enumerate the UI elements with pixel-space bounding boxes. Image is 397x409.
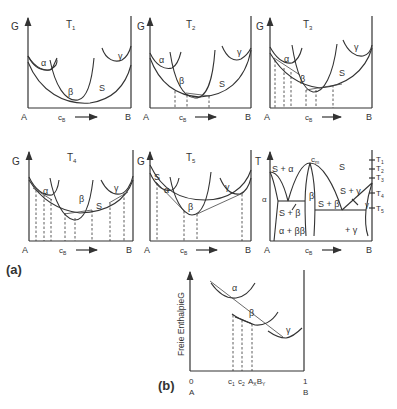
beta-label: β [179,76,184,86]
x-left-label: A [264,112,270,122]
beta-curve [292,44,337,92]
panel-t1: G T1 α β γ S A B cB [11,16,131,123]
s-label: S [99,83,105,93]
alpha-solidus [270,172,278,201]
compound-label: AXBY [248,377,266,387]
common-tangent [306,84,342,90]
cm-label: cm [311,155,319,165]
x-right-label: B [125,112,131,122]
alpha-label: α [43,186,48,196]
beta-curve [235,312,278,325]
s-label: S [219,79,225,89]
part-a-label: (a) [6,262,22,277]
region-gamma: γ [365,200,369,209]
t3-tick-label: T3 [376,173,384,183]
panel-b: Freie EnthalpieG α β γ 0 A 1 B c1 c2 AXB… [176,270,308,397]
beta-label: β [300,74,305,84]
region-s: S [339,162,345,172]
alpha-label: α [284,54,289,64]
temp-label: T2 [186,19,196,31]
cb-label: cB [59,246,67,256]
x-right-label: B [303,388,308,397]
panel-t5: G G T5 S α β γ A B cB [136,150,251,256]
x-one-label: 1 [303,377,308,386]
temp-label: T1 [66,19,76,31]
beta-label: β [249,308,254,318]
c1-label: c1 [228,377,235,387]
alpha-label: α [164,185,169,195]
free-energy-diagram-figure: G T1 α β γ S A B cB G G T2 α β γ S A [0,0,397,409]
beta-label: β [188,202,193,212]
x-left-label: A [189,388,195,397]
region-alpha-beta: α + ββ [279,226,305,236]
s-curve [150,50,251,97]
panel-t3: T3 α β γ S A B cB [264,16,372,123]
cb-label: cB [305,246,313,256]
region-alpha: α [262,195,267,204]
x-zero-label: 0 [189,377,194,386]
panel-t4: G T4 α β γ S A B cB [12,150,133,256]
region-s-gamma: S + γ [340,186,361,196]
x-right-label: B [245,245,251,255]
x-left-label: A [22,245,28,255]
cb-label: cB [58,113,66,123]
temp-label: T5 [186,152,196,164]
alpha-solvus [274,201,278,241]
x-left-label: A [264,245,270,255]
t-label: T [255,156,261,167]
cb-label: cB [179,113,187,123]
gamma-label: γ [286,325,291,335]
beta-curve [50,178,93,220]
t5-tick-label: T5 [376,204,384,214]
gamma-label: γ [354,42,359,52]
region-beta: β [309,191,314,201]
s-label: S [154,172,160,182]
x-right-label: B [366,245,372,255]
region-s-alpha: S + α [272,164,293,174]
alpha-liquidus [270,172,288,201]
g-label: G [256,21,264,32]
temp-label: T4 [67,152,77,164]
cb-label: cB [305,113,313,123]
pointer-line-2 [352,199,358,205]
s-label: S [96,201,102,211]
s-label: S [339,68,345,78]
temp-label: T3 [303,19,313,31]
alpha-label: α [41,58,46,68]
alpha-label: α [159,55,164,65]
x-right-label: B [245,112,251,122]
gamma-label: γ [114,183,119,193]
beta-label: β [68,87,73,97]
s-curve [28,62,131,103]
x-left-label: A [144,245,150,255]
alpha-curve [150,52,181,68]
x-right-label: B [126,245,132,255]
part-b-label: (b) [158,378,175,393]
free-enthalpy-label: Freie EnthalpieG [176,292,186,356]
x-right-label: B [366,112,372,122]
gamma-solvus [366,210,368,236]
common-tangent [156,182,185,212]
region-s-beta-right: S + β [318,199,339,209]
cb-label: cB [180,246,188,256]
gamma-curve [102,46,131,61]
region-s-beta-left: S + β [279,208,300,218]
panel-t2: G G T2 α β γ S A B cB [137,16,264,123]
x-left-label: A [143,112,149,122]
gamma-label: γ [225,182,230,192]
c2-label: c2 [238,377,245,387]
g-label: G [11,21,19,32]
region-plus-gamma: + γ [345,225,358,235]
gamma-label: γ [237,47,242,57]
common-tangent [210,281,283,337]
g-label-left: G [137,21,145,32]
t4-tick-label: T4 [376,189,384,199]
x-left-label: A [21,112,27,122]
alpha-label: α [232,283,237,293]
phase-diagram: T T1 T2 T3 T4 T5 S + α [255,150,384,256]
g-label: G [12,156,20,167]
gamma-label: γ [118,51,123,61]
beta-label: β [79,194,84,204]
